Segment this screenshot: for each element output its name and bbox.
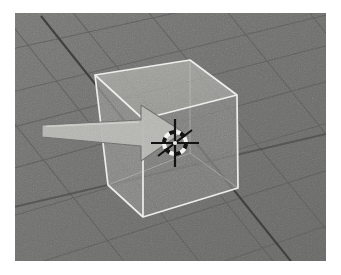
viewport-scene[interactable]: [15, 13, 326, 261]
cursor-center-dot: [173, 141, 177, 145]
screenshot-root: [0, 0, 341, 275]
viewport-3d[interactable]: [15, 13, 326, 261]
